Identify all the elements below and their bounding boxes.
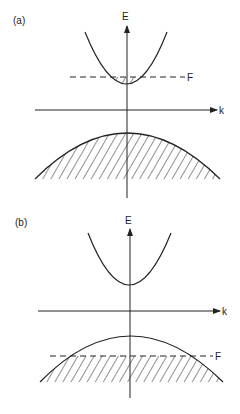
panel-b: (b) F E k	[15, 215, 228, 398]
panel-a-label: (a)	[13, 15, 25, 26]
conduction-band-curve	[85, 32, 167, 84]
band-diagram: (a) F E k (b) F E k	[0, 0, 240, 414]
energy-axis-label: E	[125, 215, 132, 226]
panel-b-label: (b)	[15, 217, 27, 228]
wavevector-axis-label: k	[219, 105, 225, 116]
wavevector-axis-label: k	[222, 306, 228, 317]
energy-axis-label: E	[122, 11, 129, 22]
fermi-label: F	[187, 72, 193, 83]
fermi-label: F	[215, 351, 221, 362]
panel-a: (a) F E k	[13, 11, 225, 198]
